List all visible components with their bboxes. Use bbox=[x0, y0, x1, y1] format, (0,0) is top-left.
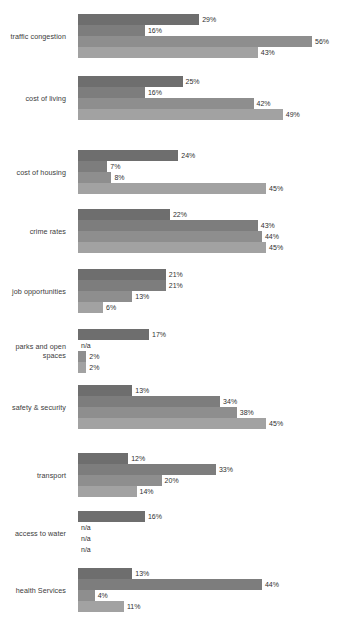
category-label: crime rates bbox=[0, 227, 72, 236]
bar-row: 24% bbox=[78, 150, 345, 161]
bar-series-4[interactable] bbox=[78, 242, 266, 253]
grouped-bar-chart: traffic congestion29%16%56%43%cost of li… bbox=[0, 0, 345, 630]
bar-value-label: 33% bbox=[219, 465, 233, 474]
bar-row: 2% bbox=[78, 362, 345, 373]
bar-stack: 29%16%56%43% bbox=[78, 14, 345, 58]
bar-series-1[interactable] bbox=[78, 568, 132, 579]
bar-series-4[interactable] bbox=[78, 486, 137, 497]
bar-row: 22% bbox=[78, 209, 345, 220]
bar-row: 4% bbox=[78, 590, 345, 601]
category-label: transport bbox=[0, 471, 72, 480]
category-label: traffic congestion bbox=[0, 32, 72, 41]
bar-series-2[interactable] bbox=[78, 396, 220, 407]
bar-value-label: 16% bbox=[148, 26, 162, 35]
bar-series-2[interactable] bbox=[78, 161, 107, 172]
bar-value-label: 29% bbox=[202, 15, 216, 24]
bar-group: transport12%33%20%14% bbox=[0, 453, 345, 497]
bar-row: 29% bbox=[78, 14, 345, 25]
bar-series-4[interactable] bbox=[78, 362, 86, 373]
bar-series-4[interactable] bbox=[78, 418, 266, 429]
bar-row: 25% bbox=[78, 76, 345, 87]
bar-series-1[interactable] bbox=[78, 209, 170, 220]
bar-series-3[interactable] bbox=[78, 231, 262, 242]
category-label: health Services bbox=[0, 586, 72, 595]
bar-series-1[interactable] bbox=[78, 329, 149, 340]
bar-row: 42% bbox=[78, 98, 345, 109]
bar-series-4[interactable] bbox=[78, 601, 124, 612]
bar-row: 44% bbox=[78, 579, 345, 590]
bar-value-label: 16% bbox=[148, 88, 162, 97]
bar-row: 34% bbox=[78, 396, 345, 407]
bar-series-2[interactable] bbox=[78, 220, 258, 231]
bar-row: 45% bbox=[78, 183, 345, 194]
bar-series-3[interactable] bbox=[78, 475, 162, 486]
bar-stack: 16%n/an/an/a bbox=[78, 511, 345, 555]
bar-row: 21% bbox=[78, 280, 345, 291]
bar-series-4[interactable] bbox=[78, 183, 266, 194]
bar-value-label: 25% bbox=[186, 77, 200, 86]
bar-value-label: 38% bbox=[240, 408, 254, 417]
bar-value-label: 11% bbox=[127, 602, 141, 611]
bar-series-1[interactable] bbox=[78, 150, 178, 161]
bar-group: traffic congestion29%16%56%43% bbox=[0, 14, 345, 58]
bar-series-4[interactable] bbox=[78, 302, 103, 313]
bar-row: 16% bbox=[78, 87, 345, 98]
bar-row: 6% bbox=[78, 302, 345, 313]
bar-value-label: 2% bbox=[89, 352, 99, 361]
bar-row: 17% bbox=[78, 329, 345, 340]
bar-series-2[interactable] bbox=[78, 464, 216, 475]
bar-series-2[interactable] bbox=[78, 579, 262, 590]
bar-series-4[interactable] bbox=[78, 47, 258, 58]
bar-value-label: 44% bbox=[265, 232, 279, 241]
bar-row: 43% bbox=[78, 220, 345, 231]
bar-value-label: 49% bbox=[286, 110, 300, 119]
bar-group: access to water16%n/an/an/a bbox=[0, 511, 345, 555]
bar-row: n/a bbox=[78, 544, 345, 555]
bar-value-label: 6% bbox=[106, 303, 116, 312]
bar-row: 13% bbox=[78, 385, 345, 396]
bar-series-3[interactable] bbox=[78, 98, 254, 109]
category-label: access to water bbox=[0, 529, 72, 538]
bar-row: 33% bbox=[78, 464, 345, 475]
bar-value-label: 20% bbox=[165, 476, 179, 485]
bar-stack: 12%33%20%14% bbox=[78, 453, 345, 497]
bar-value-label: 45% bbox=[269, 243, 283, 252]
bar-series-3[interactable] bbox=[78, 351, 86, 362]
bar-value-label: 4% bbox=[98, 591, 108, 600]
bar-value-label: 7% bbox=[110, 162, 120, 171]
bar-stack: 21%21%13%6% bbox=[78, 269, 345, 313]
bar-row: 14% bbox=[78, 486, 345, 497]
bar-row: 38% bbox=[78, 407, 345, 418]
category-label: parks and open spaces bbox=[0, 342, 72, 360]
bar-series-1[interactable] bbox=[78, 14, 199, 25]
bar-series-3[interactable] bbox=[78, 407, 237, 418]
bar-value-label: 21% bbox=[169, 281, 183, 290]
bar-series-3[interactable] bbox=[78, 36, 312, 47]
bar-row: n/a bbox=[78, 340, 345, 351]
bar-series-1[interactable] bbox=[78, 269, 166, 280]
bar-series-2[interactable] bbox=[78, 25, 145, 36]
bar-row: 45% bbox=[78, 242, 345, 253]
bar-series-1[interactable] bbox=[78, 511, 145, 522]
bar-series-4[interactable] bbox=[78, 109, 283, 120]
bar-row: 11% bbox=[78, 601, 345, 612]
bar-series-1[interactable] bbox=[78, 453, 128, 464]
bar-value-label: n/a bbox=[81, 341, 91, 350]
bar-stack: 25%16%42%49% bbox=[78, 76, 345, 120]
bar-series-1[interactable] bbox=[78, 76, 183, 87]
bar-series-1[interactable] bbox=[78, 385, 132, 396]
bar-value-label: n/a bbox=[81, 545, 91, 554]
bar-series-3[interactable] bbox=[78, 172, 111, 183]
bar-series-2[interactable] bbox=[78, 87, 145, 98]
bar-series-3[interactable] bbox=[78, 590, 95, 601]
bar-row: n/a bbox=[78, 522, 345, 533]
bar-series-2[interactable] bbox=[78, 280, 166, 291]
bar-row: 44% bbox=[78, 231, 345, 242]
bar-value-label: 42% bbox=[257, 99, 271, 108]
bar-value-label: n/a bbox=[81, 523, 91, 532]
bar-value-label: 45% bbox=[269, 184, 283, 193]
bar-series-3[interactable] bbox=[78, 291, 132, 302]
bar-value-label: 13% bbox=[135, 386, 149, 395]
bar-value-label: 34% bbox=[223, 397, 237, 406]
bar-row: 43% bbox=[78, 47, 345, 58]
